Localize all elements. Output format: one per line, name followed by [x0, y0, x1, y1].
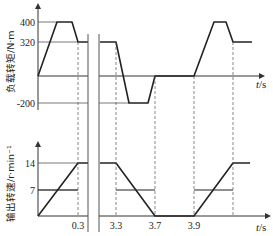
bottom-y-label: 输出转速/r·min⁻¹ [5, 145, 16, 222]
torque-curve-part2 [100, 22, 252, 103]
tick-7: 7 [30, 185, 35, 196]
xtick-3.7: 3.7 [149, 220, 162, 231]
load-torque-chart: 400 320 -200 负载转矩/N·m t/s [5, 6, 266, 110]
tick-minus200: -200 [17, 98, 35, 109]
tick-320: 320 [20, 37, 35, 48]
torque-curve-part1 [38, 22, 88, 76]
xtick-3.3: 3.3 [110, 220, 123, 231]
xtick-0.3: 0.3 [72, 220, 85, 231]
tick-14: 14 [25, 158, 35, 169]
torque-speed-diagram: 400 320 -200 负载转矩/N·m t/s 14 7 输出转速/r·mi… [0, 0, 273, 236]
tick-400: 400 [20, 17, 35, 28]
bottom-t-label: t/s [256, 221, 266, 233]
output-speed-chart: 14 7 输出转速/r·min⁻¹ 0.3 3.3 3.7 3.9 t/s [5, 144, 268, 233]
xtick-3.9: 3.9 [188, 220, 201, 231]
axis-break [88, 34, 99, 232]
top-t-label: t/s [256, 78, 266, 90]
top-y-label: 负载转矩/N·m [5, 30, 16, 93]
